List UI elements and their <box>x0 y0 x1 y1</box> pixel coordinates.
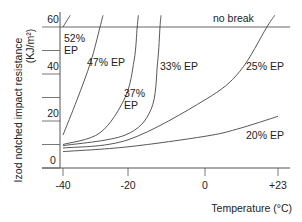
x-tick-label: -20 <box>120 179 135 191</box>
curve-52-ep <box>63 15 70 27</box>
x-tick-label: +23 <box>269 179 287 191</box>
y-axis-title: Izod notched impact resistance <box>12 37 24 182</box>
x-tick-label: -40 <box>55 179 70 191</box>
y-axis-unit: (KJ/m²) <box>24 29 36 63</box>
series-label: 33% EP <box>160 60 198 72</box>
annotations: 52%EP47% EP37%EP33% EP25% EP20% EPno bre… <box>64 12 284 141</box>
y-tick-label: 20 <box>47 107 59 119</box>
curve-25-ep <box>63 15 275 148</box>
series-label: 20% EP <box>246 129 284 141</box>
impact-resistance-chart: 0204060-40-200+23 52%EP47% EP37%EP33% EP… <box>0 0 302 222</box>
series-label: 37% <box>124 87 145 99</box>
x-tick-label: 0 <box>202 179 208 191</box>
series-label: 25% EP <box>246 60 284 72</box>
y-tick-label: 0 <box>50 154 56 166</box>
series-label: 47% EP <box>87 56 125 68</box>
y-tick-label: 60 <box>47 13 59 25</box>
series-label: EP <box>64 44 78 56</box>
y-tick-label: 40 <box>47 60 59 72</box>
no-break-label: no break <box>213 12 255 24</box>
series-label: 52% <box>64 32 85 44</box>
series-label: EP <box>124 99 138 111</box>
x-axis-title: Temperature (°C) <box>211 202 292 214</box>
